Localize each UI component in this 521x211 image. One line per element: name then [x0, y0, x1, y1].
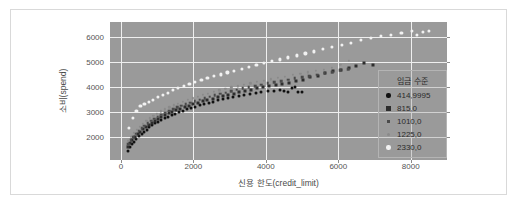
legend-label: 815,0: [397, 104, 417, 113]
data-point: [207, 101, 210, 104]
data-point: [189, 101, 192, 104]
data-point: [230, 86, 232, 88]
data-point: [153, 117, 156, 120]
data-point: [233, 69, 236, 72]
data-point: [128, 127, 131, 130]
data-point: [248, 93, 251, 96]
data-point: [232, 92, 235, 95]
data-point: [274, 83, 277, 86]
legend-label: 2330,0: [397, 143, 421, 152]
data-point: [247, 86, 250, 89]
data-point: [161, 93, 164, 96]
data-point: [301, 76, 304, 79]
data-point: [168, 110, 171, 113]
data-point: [139, 104, 142, 107]
data-point: [256, 81, 258, 83]
data-point: [421, 30, 424, 33]
data-point: [277, 77, 279, 79]
data-point: [260, 83, 263, 86]
data-point: [183, 106, 186, 109]
x-axis-label: 신용 한도(credit_limit): [110, 176, 447, 188]
data-point: [316, 73, 319, 76]
data-point: [194, 80, 197, 83]
data-point: [131, 116, 134, 119]
data-point: [278, 58, 281, 61]
data-point: [175, 109, 178, 112]
data-point: [224, 88, 226, 90]
data-point: [331, 71, 334, 74]
data-point: [243, 94, 246, 97]
data-point: [129, 139, 132, 142]
data-point: [287, 78, 290, 81]
data-point: [294, 77, 297, 80]
data-point: [227, 97, 230, 100]
data-point: [198, 98, 201, 101]
data-point: [268, 84, 271, 87]
data-point: [331, 45, 334, 48]
data-point: [249, 82, 251, 84]
data-point: [174, 112, 177, 115]
data-point: [164, 108, 166, 110]
data-point: [282, 90, 285, 93]
data-point: [410, 30, 413, 33]
data-point: [287, 91, 290, 94]
data-point: [240, 67, 243, 70]
data-point: [427, 30, 430, 33]
data-point: [273, 81, 276, 84]
legend-marker-icon: [383, 106, 394, 110]
data-point: [302, 79, 305, 82]
data-point: [170, 114, 173, 117]
legend-title: 임금 수준: [383, 75, 442, 86]
data-point: [304, 52, 307, 55]
data-point: [212, 91, 214, 93]
data-point: [236, 88, 239, 91]
data-point: [321, 48, 324, 51]
legend-item[interactable]: 815,0: [383, 102, 442, 115]
data-point: [134, 133, 137, 136]
gridline-horizontal: [110, 62, 447, 63]
data-point: [227, 93, 230, 96]
data-point: [167, 112, 170, 115]
data-point: [359, 38, 362, 41]
data-point: [147, 100, 150, 103]
data-point: [219, 73, 222, 76]
data-point: [187, 104, 190, 107]
legend-item[interactable]: 2330,0: [383, 141, 442, 154]
legend-marker-icon: [383, 145, 394, 149]
legend-item[interactable]: 1225,0: [383, 128, 442, 141]
legend[interactable]: 임금 수준 414,9995815,01010,01225,02330,0: [378, 70, 447, 158]
data-point: [218, 89, 220, 91]
legend-item[interactable]: 1010,0: [383, 115, 442, 128]
data-point: [166, 115, 169, 118]
data-point: [137, 130, 140, 133]
data-point: [221, 95, 224, 98]
gridline-vertical: [121, 22, 122, 160]
data-point: [160, 113, 163, 116]
legend-marker-icon: [383, 93, 394, 97]
data-point: [287, 56, 290, 59]
data-point: [266, 90, 269, 93]
data-point: [171, 110, 174, 113]
data-point: [176, 106, 179, 109]
data-point: [269, 78, 271, 80]
data-point: [297, 91, 300, 94]
data-point: [244, 90, 247, 93]
data-point: [369, 36, 372, 39]
data-point: [307, 71, 309, 73]
data-point: [237, 95, 240, 98]
data-point: [179, 107, 182, 110]
data-point: [232, 96, 235, 99]
data-point: [254, 85, 257, 88]
data-point: [177, 86, 180, 89]
data-point: [323, 69, 325, 71]
legend-item[interactable]: 414,9995: [383, 89, 442, 102]
x-tick-label: 8000: [402, 162, 420, 171]
data-point: [192, 103, 195, 106]
x-tick-label: 0: [119, 162, 123, 171]
data-point: [172, 108, 175, 111]
data-point: [143, 124, 146, 127]
data-point: [299, 73, 301, 75]
data-point: [312, 50, 315, 53]
y-tick-label: 4000: [86, 83, 104, 92]
legend-label: 1225,0: [397, 130, 421, 139]
